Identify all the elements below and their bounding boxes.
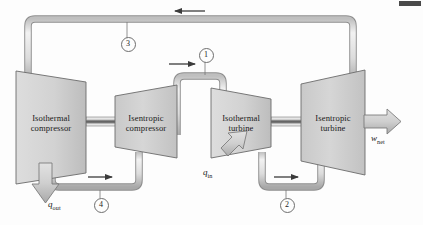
label-isothermal-compressor: Isothermal compressor — [16, 114, 86, 133]
label-work-net: wnet — [371, 133, 385, 146]
label-heat-out: qout — [48, 199, 61, 212]
label-isentropic-turbine: Isentropic turbine — [298, 114, 368, 133]
label-heat-in: qin — [203, 167, 213, 180]
label-line-2: compressor — [110, 124, 182, 134]
flow-arrow-state-2 — [274, 174, 299, 180]
label-line-2: turbine — [206, 124, 276, 134]
heat-out-subscript: out — [53, 204, 61, 211]
flow-arrow-top-return — [174, 8, 205, 14]
label-line-2: compressor — [16, 124, 86, 134]
flow-arrow-state-1 — [169, 61, 196, 67]
state-point-1: 1 — [199, 48, 214, 63]
ericsson-cycle-diagram: Isothermal compressor Isentropic compres… — [0, 0, 423, 225]
work-net-subscript: net — [377, 138, 385, 145]
state-point-4: 4 — [94, 198, 109, 213]
scan-artifact — [399, 1, 421, 6]
heat-in-subscript: in — [208, 172, 213, 179]
label-line-2: turbine — [298, 124, 368, 134]
state-point-3: 3 — [121, 37, 136, 52]
label-isothermal-turbine: Isothermal turbine — [206, 114, 276, 133]
label-isentropic-compressor: Isentropic compressor — [110, 114, 182, 133]
state-point-2: 2 — [280, 198, 295, 213]
work-net-arrow — [364, 109, 401, 134]
flow-arrow-state-4 — [88, 174, 113, 180]
